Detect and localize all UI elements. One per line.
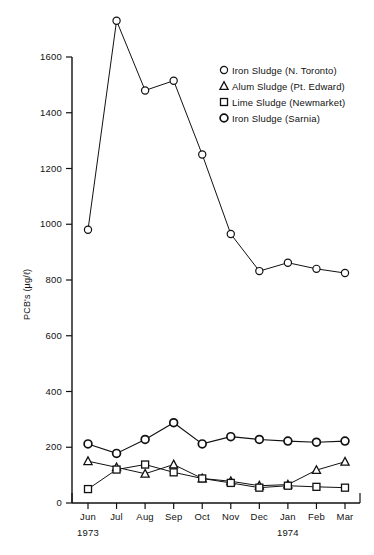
legend-item-0: Iron Sludge (N. Toronto): [216, 63, 374, 77]
y-tick-label: 1600: [18, 51, 62, 62]
series-3: [84, 419, 349, 457]
legend-item-1: Alum Sludge (Pt. Edward): [216, 79, 374, 93]
y-tick-label: 800: [18, 274, 62, 285]
legend-label: Lime Sludge (Newmarket): [232, 97, 345, 108]
circle-icon: [216, 63, 232, 77]
circle-bold-icon: [216, 111, 232, 125]
y-tick-label: 1400: [18, 107, 62, 118]
x-axis-ticks: [72, 493, 360, 509]
legend-label: Iron Sludge (N. Toronto): [232, 65, 337, 76]
legend-item-2: Lime Sludge (Newmarket): [216, 95, 374, 109]
y-tick-label: 1000: [18, 218, 62, 229]
y-tick-label: 600: [18, 330, 62, 341]
triangle-icon: [216, 79, 232, 93]
series-1: [84, 457, 349, 489]
y-tick-label: 0: [18, 497, 62, 508]
legend-label: Iron Sludge (Sarnia): [232, 113, 320, 124]
series-2: [85, 461, 349, 493]
y-tick-label: 1200: [18, 163, 62, 174]
chart-legend: Iron Sludge (N. Toronto)Alum Sludge (Pt.…: [216, 63, 374, 127]
x-axis-year-label: 1973: [68, 527, 108, 538]
square-icon: [216, 95, 232, 109]
series-0: [84, 17, 348, 276]
y-tick-label: 400: [18, 386, 62, 397]
y-tick-label: 200: [18, 441, 62, 452]
legend-item-3: Iron Sludge (Sarnia): [216, 111, 374, 125]
legend-label: Alum Sludge (Pt. Edward): [232, 81, 345, 92]
x-tick-label: Mar: [327, 511, 363, 522]
x-axis-year-label: 1974: [268, 527, 308, 538]
pcb-line-chart-figure: PCB's (µg/ℓ) 020040060080010001200140016…: [0, 0, 374, 555]
y-axis-ticks: [66, 57, 72, 503]
